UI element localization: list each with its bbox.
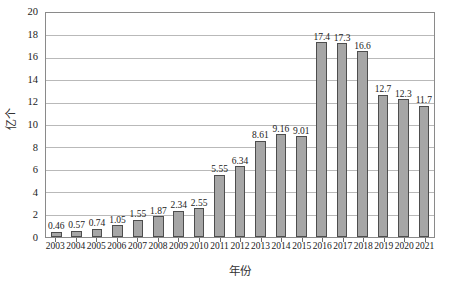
bar-value-label: 2.34 bbox=[170, 201, 187, 211]
x-tick-slot: 2011 bbox=[209, 238, 230, 256]
bar-slot: 12.3 bbox=[393, 13, 413, 237]
x-tick-slot: 2007 bbox=[127, 238, 148, 256]
bar-value-label: 0.46 bbox=[48, 222, 65, 232]
plot-area: 0.460.570.741.051.551.872.342.555.556.34… bbox=[45, 12, 435, 238]
x-tick-label: 2018 bbox=[354, 242, 373, 252]
y-tick-label: 12 bbox=[28, 97, 39, 108]
y-tick-label: 4 bbox=[33, 188, 38, 199]
y-tick-label: 14 bbox=[28, 75, 39, 86]
bar-value-label: 12.3 bbox=[395, 90, 412, 100]
bar-slot: 8.61 bbox=[250, 13, 270, 237]
bar[interactable]: 9.16 bbox=[276, 134, 287, 237]
y-tick-label: 8 bbox=[33, 142, 38, 153]
x-tick-slot: 2017 bbox=[332, 238, 353, 256]
bar-slot: 16.6 bbox=[352, 13, 372, 237]
x-tick-slot: 2021 bbox=[415, 238, 436, 256]
bar-value-label: 6.34 bbox=[232, 157, 249, 167]
bar-value-label: 1.87 bbox=[150, 207, 167, 217]
bars-layer: 0.460.570.741.051.551.872.342.555.556.34… bbox=[46, 13, 434, 237]
x-tick-label: 2016 bbox=[313, 242, 332, 252]
bar-value-label: 12.7 bbox=[375, 85, 392, 95]
bar-slot: 0.57 bbox=[66, 13, 86, 237]
bar-value-label: 16.6 bbox=[354, 42, 371, 52]
y-tick-label: 20 bbox=[28, 7, 39, 18]
x-tick-label: 2004 bbox=[66, 242, 85, 252]
x-tick-label: 2007 bbox=[128, 242, 147, 252]
bar[interactable]: 2.34 bbox=[173, 211, 184, 237]
bar-value-label: 9.01 bbox=[293, 127, 310, 137]
x-tick-slot: 2009 bbox=[168, 238, 189, 256]
bar[interactable]: 6.34 bbox=[235, 166, 246, 237]
x-tick-label: 2005 bbox=[87, 242, 106, 252]
bar-slot: 0.74 bbox=[87, 13, 107, 237]
bar-slot: 1.55 bbox=[128, 13, 148, 237]
bar-chart: 亿个 02468101214161820 0.460.570.741.051.5… bbox=[0, 0, 458, 287]
x-tick-slot: 2010 bbox=[189, 238, 210, 256]
bar[interactable]: 1.87 bbox=[153, 216, 164, 237]
x-axis-title: 年份 bbox=[45, 262, 435, 278]
x-tick-slot: 2004 bbox=[66, 238, 87, 256]
x-tick-label: 2010 bbox=[189, 242, 208, 252]
bar-value-label: 2.55 bbox=[191, 199, 208, 209]
x-tick-label: 2003 bbox=[46, 242, 65, 252]
x-tick-slot: 2012 bbox=[230, 238, 251, 256]
bar[interactable]: 1.55 bbox=[133, 220, 144, 237]
y-tick-label: 18 bbox=[28, 29, 39, 40]
bar[interactable]: 8.61 bbox=[255, 141, 266, 237]
bar-slot: 11.7 bbox=[414, 13, 434, 237]
x-tick-slot: 2003 bbox=[45, 238, 66, 256]
bar[interactable]: 12.3 bbox=[398, 99, 409, 237]
bar[interactable]: 1.05 bbox=[112, 225, 123, 237]
x-tick-label: 2020 bbox=[395, 242, 414, 252]
bar-value-label: 1.05 bbox=[109, 216, 126, 226]
x-tick-label: 2021 bbox=[415, 242, 434, 252]
x-tick-slot: 2006 bbox=[107, 238, 128, 256]
x-tick-label: 2009 bbox=[169, 242, 188, 252]
bar-value-label: 17.3 bbox=[334, 34, 351, 44]
y-tick-label: 0 bbox=[33, 233, 38, 244]
x-tick-label: 2011 bbox=[210, 242, 229, 252]
x-tick-slot: 2015 bbox=[291, 238, 312, 256]
bar-value-label: 0.74 bbox=[89, 219, 106, 229]
y-tick-label: 6 bbox=[33, 165, 38, 176]
bar-slot: 2.55 bbox=[189, 13, 209, 237]
bar-slot: 9.16 bbox=[271, 13, 291, 237]
bar[interactable]: 2.55 bbox=[194, 208, 205, 237]
x-tick-slot: 2020 bbox=[394, 238, 415, 256]
y-tick-label: 10 bbox=[28, 120, 39, 131]
bar-slot: 2.34 bbox=[169, 13, 189, 237]
bar[interactable]: 17.3 bbox=[337, 43, 348, 237]
bar-slot: 17.4 bbox=[311, 13, 331, 237]
bar[interactable]: 12.7 bbox=[378, 95, 389, 237]
y-axis-tick-labels: 02468101214161820 bbox=[14, 12, 42, 238]
bar-value-label: 8.61 bbox=[252, 131, 269, 141]
bar[interactable]: 0.74 bbox=[92, 229, 103, 237]
bar-value-label: 11.7 bbox=[416, 96, 432, 106]
bar[interactable]: 9.01 bbox=[296, 136, 307, 237]
x-tick-label: 2017 bbox=[333, 242, 352, 252]
x-tick-slot: 2016 bbox=[312, 238, 333, 256]
bar-slot: 12.7 bbox=[373, 13, 393, 237]
bar-slot: 1.87 bbox=[148, 13, 168, 237]
bar-slot: 5.55 bbox=[209, 13, 229, 237]
bar[interactable]: 5.55 bbox=[214, 175, 225, 237]
x-tick-slot: 2013 bbox=[250, 238, 271, 256]
bar[interactable]: 11.7 bbox=[419, 106, 430, 237]
bar[interactable]: 16.6 bbox=[357, 51, 368, 237]
bar[interactable]: 0.57 bbox=[71, 231, 82, 237]
bar-value-label: 5.55 bbox=[211, 165, 228, 175]
bar[interactable]: 17.4 bbox=[316, 42, 327, 237]
bar-slot: 9.01 bbox=[291, 13, 311, 237]
x-tick-label: 2012 bbox=[231, 242, 250, 252]
x-tick-label: 2019 bbox=[374, 242, 393, 252]
bar[interactable]: 0.46 bbox=[51, 232, 62, 237]
x-tick-label: 2014 bbox=[272, 242, 291, 252]
bar-value-label: 9.16 bbox=[273, 125, 290, 135]
y-tick-label: 16 bbox=[28, 52, 39, 63]
bar-value-label: 17.4 bbox=[313, 33, 330, 43]
x-tick-slot: 2005 bbox=[86, 238, 107, 256]
bar-slot: 1.05 bbox=[107, 13, 127, 237]
x-axis-tick-labels: 2003200420052006200720082009201020112012… bbox=[45, 238, 435, 256]
bar-slot: 17.3 bbox=[332, 13, 352, 237]
x-tick-label: 2006 bbox=[107, 242, 126, 252]
